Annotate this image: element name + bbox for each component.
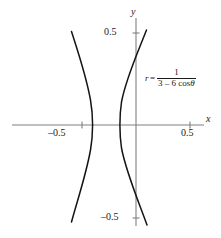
y-tick-label-pos-half: 0.5 — [104, 26, 117, 37]
polar-conic-figure: –0.5 0.5 0.5 –0.5 x y r = 1 3 – 6 cosθ — [0, 0, 221, 238]
equation-relation: = — [150, 74, 155, 83]
x-tick-label-neg-half: –0.5 — [48, 127, 66, 138]
equation-lhs: r — [145, 74, 149, 83]
denominator-theta: θ — [190, 78, 194, 88]
equation-denominator: 3 – 6 cosθ — [157, 79, 196, 89]
curve-right-branch — [120, 30, 147, 225]
x-axis-label: x — [206, 113, 210, 124]
equation-annotation: r = 1 3 – 6 cosθ — [145, 68, 196, 88]
equation-numerator: 1 — [171, 68, 182, 78]
y-axis-label: y — [131, 6, 135, 17]
equation-fraction: 1 3 – 6 cosθ — [157, 68, 196, 88]
y-tick-label-neg-half: –0.5 — [101, 211, 119, 222]
denominator-cos: cos — [178, 78, 190, 88]
x-tick-label-pos-half: 0.5 — [181, 127, 194, 138]
